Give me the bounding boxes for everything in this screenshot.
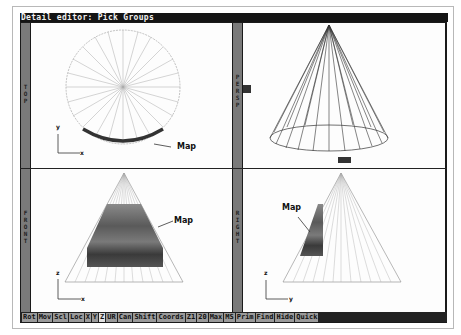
menu-x[interactable]: X [85,313,91,322]
menu-coords[interactable]: Coords [157,313,184,322]
axis-label-x: x [80,149,84,156]
menu-prim[interactable]: Prim [236,313,255,322]
menu-max[interactable]: Max [209,313,224,322]
viewport-right[interactable]: Map z y [243,169,445,312]
view-strip-front[interactable]: FRONT [21,169,30,312]
map-annotation-front: Map [174,216,193,225]
front-view-graphics [31,169,232,312]
viewport-top[interactable]: Map y x [31,23,232,168]
menu-find[interactable]: Find [256,313,275,322]
command-menu-bar: Rot Mov Scl Loc X Y Z UR Can Shift Coord… [20,312,447,322]
menu-can[interactable]: Can [118,313,133,322]
menu-rot[interactable]: Rot [22,313,37,322]
menu-loc[interactable]: Loc [69,313,84,322]
menu-shift[interactable]: Shift [133,313,156,322]
map-annotation-top: Map [177,142,196,151]
detail-editor-window: Detail editor: Pick Groups TOP [20,13,447,323]
menu-hide[interactable]: Hide [275,313,294,322]
menu-mov[interactable]: Mov [38,313,53,322]
menu-ms[interactable]: MS [224,313,234,322]
menu-scl[interactable]: Scl [53,313,68,322]
top-view-graphics [31,23,232,168]
axis-label-y: y [56,123,60,130]
map-image-right [300,204,323,256]
menu-quick[interactable]: Quick [295,313,318,322]
persp-view-graphics [243,23,445,168]
viewport-front[interactable]: Map z x [31,169,232,312]
view-label-persp: PERSP [233,73,242,108]
view-strip-top[interactable]: TOP [21,23,30,168]
axis-label-z: z [56,269,60,276]
viewport-persp[interactable] [243,23,445,168]
menu-ur[interactable]: UR [106,313,116,322]
menu-z[interactable]: Z [99,313,105,322]
view-label-top: TOP [21,83,30,104]
right-view-graphics [243,169,445,312]
menu-y[interactable]: Y [92,313,98,322]
axis-label-y: y [289,295,293,302]
map-image-front [87,204,163,267]
axis-label-x: x [81,295,85,302]
view-strip-persp[interactable]: PERSP [233,23,242,168]
view-strip-right[interactable]: RIGHT [233,169,242,312]
menu-20[interactable]: 20 [197,313,207,322]
view-label-front: FRONT [21,209,30,244]
view-label-right: RIGHT [233,209,242,244]
selection-marker-bottom [338,157,351,163]
selection-marker-left [243,85,251,93]
menu-z1[interactable]: Z1 [186,313,196,322]
axis-label-z: z [264,269,268,276]
map-annotation-right: Map [282,203,301,212]
title-bar: Detail editor: Pick Groups [20,13,448,22]
